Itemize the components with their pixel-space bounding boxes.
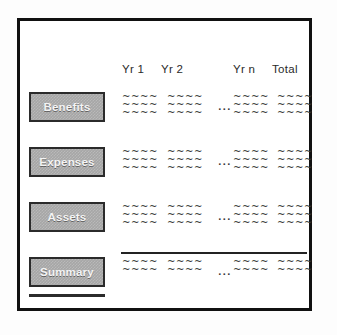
placeholder-line: ~~~~ xyxy=(122,219,162,227)
diagram-canvas: Yr 1 Yr 2 Yr n Total Benefits ~~~~ ~~~~ … xyxy=(0,0,337,335)
section-label-box-expenses[interactable]: Expenses xyxy=(29,147,105,177)
diagram-frame: Yr 1 Yr 2 Yr n Total Benefits ~~~~ ~~~~ … xyxy=(17,18,312,311)
data-block-benefits: ~~~~ ~~~~ ~~~~ ~~~~ ~~~~ ~~~~ ... ~~~~ ~… xyxy=(116,89,303,137)
data-cell-total: ~~~~ ~~~~ ~~~~ xyxy=(277,93,317,117)
data-cell-yrn: ~~~~ ~~~~ ~~~~ xyxy=(233,93,273,117)
placeholder-line: ~~~~ xyxy=(122,266,162,274)
section-label-text: Expenses xyxy=(39,156,94,168)
data-cell-yr1: ~~~~ ~~~~ ~~~~ xyxy=(122,93,162,117)
ellipsis-indicator: ... xyxy=(215,258,235,284)
data-cell-yrn: ~~~~ ~~~~ xyxy=(233,258,273,274)
data-cell-yr2: ~~~~ ~~~~ ~~~~ xyxy=(167,148,207,172)
data-cell-total: ~~~~ ~~~~ xyxy=(277,258,317,274)
data-cell-yr2: ~~~~ ~~~~ xyxy=(167,258,207,274)
section-row-expenses: Expenses ~~~~ ~~~~ ~~~~ ~~~~ ~~~~ ~~~~ .… xyxy=(20,144,309,192)
ellipsis-indicator: ... xyxy=(215,203,235,229)
data-cell-yrn: ~~~~ ~~~~ ~~~~ xyxy=(233,148,273,172)
placeholder-line: ~~~~ xyxy=(277,266,317,274)
data-cell-yrn: ~~~~ ~~~~ ~~~~ xyxy=(233,203,273,227)
placeholder-line: ~~~~ xyxy=(122,109,162,117)
placeholder-line: ~~~~ xyxy=(277,219,317,227)
section-row-benefits: Benefits ~~~~ ~~~~ ~~~~ ~~~~ ~~~~ ~~~~ .… xyxy=(20,89,309,137)
section-row-assets: Assets ~~~~ ~~~~ ~~~~ ~~~~ ~~~~ ~~~~ ...… xyxy=(20,199,309,247)
placeholder-line: ~~~~ xyxy=(233,219,273,227)
placeholder-line: ~~~~ xyxy=(167,109,207,117)
placeholder-line: ~~~~ xyxy=(167,219,207,227)
ellipsis-indicator: ... xyxy=(215,148,235,174)
data-cell-yr2: ~~~~ ~~~~ ~~~~ xyxy=(167,203,207,227)
data-cell-yr1: ~~~~ ~~~~ ~~~~ xyxy=(122,203,162,227)
summary-label-underline xyxy=(29,294,105,297)
data-cell-total: ~~~~ ~~~~ ~~~~ xyxy=(277,203,317,227)
placeholder-line: ~~~~ xyxy=(167,164,207,172)
column-header-row: Yr 1 Yr 2 Yr n Total xyxy=(20,63,309,79)
column-header-yr1: Yr 1 xyxy=(122,63,144,75)
placeholder-line: ~~~~ xyxy=(277,164,317,172)
section-label-box-benefits[interactable]: Benefits xyxy=(29,92,105,122)
section-row-summary: Summary ~~~~ ~~~~ ~~~~ ~~~~ ... ~~~~ ~~~… xyxy=(20,254,309,302)
data-cell-total: ~~~~ ~~~~ ~~~~ xyxy=(277,148,317,172)
section-label-text: Assets xyxy=(48,211,87,223)
section-label-box-summary[interactable]: Summary xyxy=(29,257,105,287)
column-header-total: Total xyxy=(272,63,298,75)
data-cell-yr1: ~~~~ ~~~~ ~~~~ xyxy=(122,148,162,172)
section-label-box-assets[interactable]: Assets xyxy=(29,202,105,232)
placeholder-line: ~~~~ xyxy=(233,109,273,117)
ellipsis-indicator: ... xyxy=(215,93,235,119)
data-block-assets: ~~~~ ~~~~ ~~~~ ~~~~ ~~~~ ~~~~ ... ~~~~ ~… xyxy=(116,199,303,247)
column-header-yrn: Yr n xyxy=(233,63,255,75)
placeholder-line: ~~~~ xyxy=(277,109,317,117)
placeholder-line: ~~~~ xyxy=(167,266,207,274)
column-header-yr2: Yr 2 xyxy=(161,63,183,75)
section-label-text: Summary xyxy=(40,266,94,278)
data-cell-yr2: ~~~~ ~~~~ ~~~~ xyxy=(167,93,207,117)
data-block-expenses: ~~~~ ~~~~ ~~~~ ~~~~ ~~~~ ~~~~ ... ~~~~ ~… xyxy=(116,144,303,192)
placeholder-line: ~~~~ xyxy=(122,164,162,172)
placeholder-line: ~~~~ xyxy=(233,164,273,172)
data-cell-yr1: ~~~~ ~~~~ xyxy=(122,258,162,274)
data-block-summary: ~~~~ ~~~~ ~~~~ ~~~~ ... ~~~~ ~~~~ ~~~~ ~… xyxy=(116,254,303,302)
section-label-text: Benefits xyxy=(44,101,91,113)
placeholder-line: ~~~~ xyxy=(233,266,273,274)
